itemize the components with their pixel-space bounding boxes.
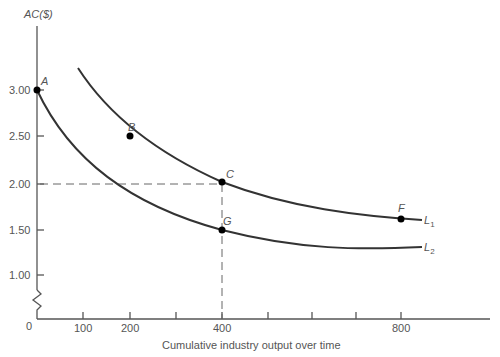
point-c-marker	[219, 179, 226, 186]
y-axis-title-text: AC($)	[23, 8, 53, 20]
origin-label: 0	[26, 320, 32, 332]
x-axis-title: Cumulative industry output over time	[162, 339, 341, 351]
curve-l1-label: L1	[424, 214, 435, 229]
y-tick-label-2.00: 2.00	[9, 178, 30, 190]
y-axis-ticks	[37, 90, 44, 275]
y-tick-label-3.00: 3.00	[9, 84, 30, 96]
y-axis-title: AC($)	[23, 8, 53, 20]
point-b-label: B	[128, 121, 135, 133]
learning-curve-chart: AC($) 3.00 2.50 2.00 1.50 1.00 0 100 200…	[0, 0, 500, 357]
curve-l2-label-sub: 2	[430, 247, 435, 256]
x-tick-label-100: 100	[74, 322, 92, 334]
x-tick-label-200: 200	[121, 322, 139, 334]
point-b-marker	[127, 133, 134, 140]
y-tick-label-1.00: 1.00	[9, 269, 30, 281]
point-g-marker	[219, 227, 226, 234]
x-tick-label-400: 400	[213, 322, 231, 334]
point-g-label: G	[223, 215, 232, 227]
point-a-label: A	[40, 75, 48, 87]
point-f-marker	[398, 216, 405, 223]
dashed-reference-lines	[40, 184, 222, 319]
curve-l1	[78, 68, 422, 220]
point-a-marker	[34, 87, 41, 94]
x-axis	[37, 312, 490, 319]
y-tick-label-1.50: 1.50	[9, 224, 30, 236]
x-tick-label-800: 800	[392, 322, 410, 334]
curve-l1-label-sub: 1	[430, 220, 435, 229]
data-points	[34, 87, 405, 234]
point-c-label: C	[226, 168, 234, 180]
point-f-label: F	[398, 202, 406, 214]
y-tick-label-2.50: 2.50	[9, 130, 30, 142]
curve-l2-label: L2	[424, 241, 435, 256]
